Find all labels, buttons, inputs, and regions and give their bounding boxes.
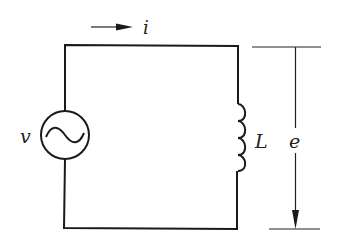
- bottom-wire: [64, 159, 237, 229]
- top-wire: [65, 45, 238, 111]
- inductor-coil: [238, 104, 245, 171]
- current-label: i: [143, 17, 149, 38]
- sine-wave-icon: [46, 128, 84, 143]
- current-arrow: [91, 24, 133, 31]
- circuit-diagram: i v L e: [0, 0, 342, 249]
- voltage-label: e: [289, 130, 300, 152]
- ac-source: [41, 111, 89, 159]
- source-label: v: [20, 125, 31, 147]
- inductor-label: L: [254, 130, 268, 152]
